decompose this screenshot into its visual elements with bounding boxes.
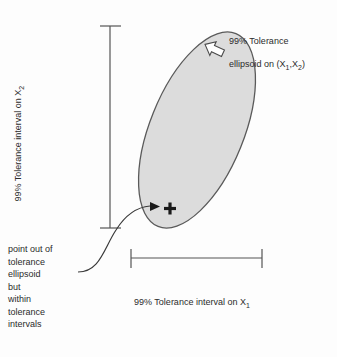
- x1-axis-label: 99% Tolerance interval on X1: [124, 285, 314, 322]
- ellipsoid-annotation-mid: ,X: [289, 59, 298, 69]
- ellipsoid-annotation-line2-prefix: ellipsoid on (X: [229, 59, 286, 69]
- x1-axis-label-subscript: 1: [246, 301, 250, 308]
- x2-axis-label: 99% Tolerance interval on X2: [1, 74, 38, 224]
- point-callout-label: point out of tolerance ellipsoid but wit…: [8, 243, 88, 331]
- ellipsoid-annotation-suffix: ): [302, 59, 305, 69]
- x1-tolerance-interval-bar: [131, 249, 262, 268]
- tolerance-ellipsoid-figure: 99% Tolerance ellipsoid on (X1,X2) 99% T…: [0, 0, 337, 357]
- x2-tolerance-interval-bar: [100, 26, 121, 228]
- x1-axis-label-text: 99% Tolerance interval on X: [134, 297, 246, 307]
- ellipsoid-annotation-label: 99% Tolerance ellipsoid on (X1,X2): [219, 24, 335, 84]
- x2-axis-label-text: 99% Tolerance interval on X: [13, 90, 23, 202]
- x2-axis-label-subscript: 2: [18, 86, 25, 90]
- ellipsoid-annotation-line1: 99% Tolerance: [229, 36, 288, 46]
- curved-arrow-path: [78, 206, 150, 272]
